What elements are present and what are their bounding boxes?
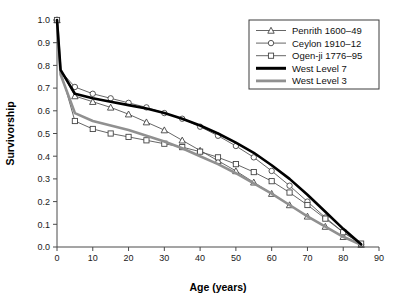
y-tick-label: 0.5 xyxy=(37,129,50,139)
y-tick-label: 1.0 xyxy=(37,15,50,25)
legend-label: West Level 7 xyxy=(292,63,347,74)
y-tick-label: 0.8 xyxy=(37,61,50,71)
marker-square xyxy=(323,216,328,221)
x-axis: 0102030405060708090 xyxy=(54,247,384,263)
marker-square xyxy=(233,162,238,167)
x-tick-label: 30 xyxy=(159,253,169,263)
y-tick-label: 0.4 xyxy=(37,152,50,162)
x-tick-label: 0 xyxy=(54,253,59,263)
x-tick-label: 10 xyxy=(88,253,98,263)
marker-square xyxy=(268,53,273,58)
y-tick-label: 0.6 xyxy=(37,106,50,116)
y-tick-label: 0.7 xyxy=(37,83,50,93)
marker-triangle xyxy=(161,127,167,133)
marker-square xyxy=(72,118,77,123)
x-tick-label: 80 xyxy=(338,253,348,263)
chart-root: 01020304050607080900.00.10.20.30.40.50.6… xyxy=(0,0,403,303)
marker-square xyxy=(215,155,220,160)
marker-square xyxy=(251,169,256,174)
legend-label: West Level 3 xyxy=(292,75,347,86)
y-axis: 0.00.10.20.30.40.50.60.70.80.91.0 xyxy=(37,15,57,252)
marker-triangle xyxy=(143,119,149,125)
marker-circle xyxy=(90,91,95,96)
y-tick-label: 0.2 xyxy=(37,197,50,207)
legend-label: Penrith 1600–49 xyxy=(292,25,362,36)
marker-square xyxy=(198,149,203,154)
legend-label: Ceylon 1910–12 xyxy=(292,38,361,49)
marker-square xyxy=(126,134,131,139)
legend-label: Ogen-ji 1776–95 xyxy=(292,50,362,61)
marker-circle xyxy=(287,183,292,188)
marker-square xyxy=(108,131,113,136)
marker-square xyxy=(269,179,274,184)
x-tick-label: 70 xyxy=(302,253,312,263)
marker-square xyxy=(287,190,292,195)
marker-circle xyxy=(269,168,274,173)
x-tick-label: 90 xyxy=(374,253,384,263)
x-tick-label: 60 xyxy=(267,253,277,263)
y-tick-label: 0.3 xyxy=(37,174,50,184)
y-tick-label: 0.0 xyxy=(37,242,50,252)
marker-triangle xyxy=(179,137,185,143)
y-tick-label: 0.9 xyxy=(37,38,50,48)
marker-square xyxy=(144,138,149,143)
legend: Penrith 1600–49Ceylon 1910–12Ogen-ji 177… xyxy=(249,20,379,89)
x-tick-label: 20 xyxy=(124,253,134,263)
x-axis-title: Age (years) xyxy=(189,281,246,293)
marker-triangle xyxy=(125,111,131,117)
y-tick-label: 0.1 xyxy=(37,220,50,230)
marker-circle xyxy=(268,40,273,45)
marker-square xyxy=(305,202,310,207)
x-tick-label: 50 xyxy=(231,253,241,263)
marker-square xyxy=(90,126,95,131)
survivorship-chart: 01020304050607080900.00.10.20.30.40.50.6… xyxy=(0,0,403,303)
y-axis-title: Survivorship xyxy=(4,101,16,165)
x-tick-label: 40 xyxy=(195,253,205,263)
